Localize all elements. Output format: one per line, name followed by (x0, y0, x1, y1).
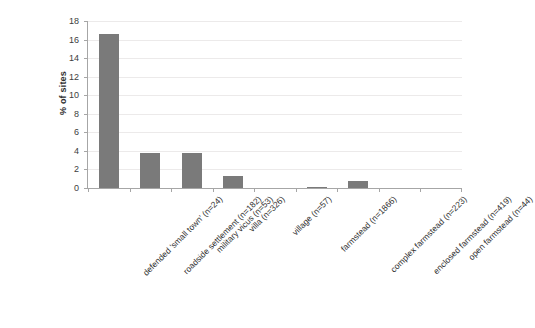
x-axis-tick-mark (296, 188, 297, 192)
bar (99, 34, 119, 188)
y-axis-tick-label: 12 (69, 72, 79, 81)
x-axis-tick-mark (130, 188, 131, 192)
bar (182, 153, 202, 188)
x-axis-tick-mark (337, 188, 338, 192)
x-axis-tick-mark (171, 188, 172, 192)
x-axis-tick-label: military vicus (n=53) (214, 194, 275, 255)
bars-layer (88, 21, 462, 188)
x-axis-label-group: defended 'small town' (n=24)roadside set… (88, 194, 486, 328)
x-axis-tick-mark (461, 188, 462, 192)
y-axis-tick-label: 4 (74, 146, 79, 155)
x-axis-tick-mark (420, 188, 421, 192)
bar (223, 176, 243, 188)
y-axis-tick-label: 0 (74, 184, 79, 193)
x-axis-tick-label: farmstead (n=1866) (338, 194, 398, 254)
x-axis-tick-label: enclosed farmstead (n=419) (431, 194, 513, 276)
x-axis-tick-group (88, 188, 462, 193)
x-axis-tick-mark (213, 188, 214, 192)
x-axis-tick-label: complex farmstead (n=223) (388, 194, 468, 274)
y-axis-tick-label: 8 (74, 109, 79, 118)
bar (140, 153, 160, 188)
x-axis-tick-label: defended 'small town' (n=24) (141, 194, 225, 278)
y-axis-tick-label: 18 (69, 17, 79, 26)
y-axis-tick-label: 14 (69, 54, 79, 63)
x-axis-tick-mark (88, 188, 89, 192)
x-axis-tick-mark (379, 188, 380, 192)
x-axis-tick-label: village (n=57) (290, 194, 333, 237)
y-axis-tick-label: 10 (69, 91, 79, 100)
y-axis-tick-group: 024681012141618 (0, 21, 88, 188)
plot-area (88, 21, 462, 188)
x-axis-tick-mark (254, 188, 255, 192)
y-axis-tick-label: 2 (74, 165, 79, 174)
y-axis-tick-label: 6 (74, 128, 79, 137)
bar (348, 181, 368, 188)
y-axis-tick-label: 16 (69, 35, 79, 44)
x-axis-tick-label: roadside settlement (n=182) (181, 194, 263, 276)
